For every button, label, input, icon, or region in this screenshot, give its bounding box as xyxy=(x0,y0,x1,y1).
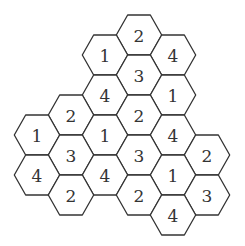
cell-number: 3 xyxy=(134,146,145,166)
cell-number: 4 xyxy=(168,126,179,146)
cell-number: 4 xyxy=(100,166,111,186)
cell-number: 3 xyxy=(202,186,213,206)
cell-number: 1 xyxy=(168,86,179,106)
cell-number: 1 xyxy=(32,126,43,146)
cell-number: 2 xyxy=(66,186,77,206)
cell-number: 4 xyxy=(100,86,111,106)
cell-number: 2 xyxy=(134,186,145,206)
hex-puzzle-board: 214341221143324412234 xyxy=(0,0,245,246)
cell-number: 2 xyxy=(202,146,213,166)
cell-number: 4 xyxy=(168,206,179,226)
cell-number: 3 xyxy=(134,66,145,86)
cell-number: 2 xyxy=(134,106,145,126)
cell-number: 4 xyxy=(32,166,43,186)
cell-number: 2 xyxy=(66,106,77,126)
cell-number: 2 xyxy=(134,26,145,46)
cell-number: 1 xyxy=(168,166,179,186)
cell-number: 4 xyxy=(168,46,179,66)
cell-number: 1 xyxy=(100,46,111,66)
cell-number: 1 xyxy=(100,126,111,146)
cell-number: 3 xyxy=(66,146,77,166)
